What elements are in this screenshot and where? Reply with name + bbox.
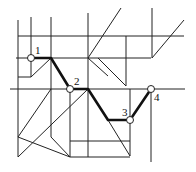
label-1: 1: [35, 44, 41, 56]
diag-2: [88, 8, 121, 58]
diagram-svg: 1 2 3 4: [0, 0, 196, 172]
node-3: [127, 117, 134, 124]
diag-10: [108, 120, 130, 156]
label-3: 3: [122, 106, 128, 118]
labels: 1 2 3 4: [35, 44, 160, 118]
diagram-canvas: 1 2 3 4: [0, 0, 196, 172]
diag-5: [98, 58, 126, 86]
node-2: [67, 86, 74, 93]
diag-4: [152, 20, 184, 58]
diag-9: [51, 137, 70, 157]
diag-1: [31, 58, 51, 77]
node-1: [28, 55, 35, 62]
grid-lines: [10, 8, 185, 162]
diag-7: [18, 89, 88, 157]
label-4: 4: [154, 91, 160, 103]
diag-3: [88, 58, 108, 76]
diag-8: [18, 137, 70, 157]
label-2: 2: [74, 75, 80, 87]
